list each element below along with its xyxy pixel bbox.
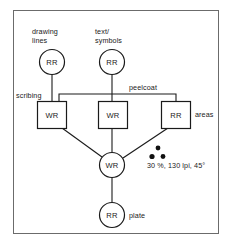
- diagram-figure: RR RR WR WR RR WR: [0, 0, 234, 243]
- label-peelcoat: peelcoat: [129, 83, 157, 92]
- halftone-dot-icon: [149, 154, 154, 159]
- diagram-canvas: RR RR WR WR RR WR: [0, 0, 234, 243]
- node-center-wr[interactable]: WR: [100, 153, 125, 178]
- node-plate-label: RR: [106, 211, 118, 220]
- halftone-dot-icon: [161, 154, 166, 159]
- node-scribing[interactable]: WR: [38, 102, 67, 129]
- node-drawing-lines[interactable]: RR: [40, 50, 65, 75]
- node-center-wr-label: WR: [105, 161, 118, 170]
- node-areas-label: RR: [170, 111, 182, 120]
- node-scribing-label: WR: [45, 111, 58, 120]
- node-text-symbols-label: RR: [106, 58, 118, 67]
- screen-spec-text: 30 %, 130 lpi, 45°: [147, 161, 205, 170]
- label-plate: plate: [129, 211, 145, 220]
- node-middle-wr-label: WR: [106, 111, 119, 120]
- label-text-symbols-line1: text/: [95, 27, 109, 36]
- label-scribing: scribing: [16, 91, 42, 100]
- node-middle-wr[interactable]: WR: [99, 102, 128, 129]
- node-drawing-lines-label: RR: [46, 58, 58, 67]
- node-text-symbols[interactable]: RR: [100, 50, 125, 75]
- label-text-symbols-line2: symbols: [95, 36, 122, 45]
- halftone-dot-icon: [156, 146, 161, 151]
- label-drawing-lines-line1: drawing: [32, 27, 58, 36]
- label-drawing-lines-line2: lines: [32, 36, 48, 45]
- node-plate[interactable]: RR: [100, 203, 125, 228]
- node-areas[interactable]: RR: [162, 102, 191, 129]
- label-areas: areas: [195, 110, 214, 119]
